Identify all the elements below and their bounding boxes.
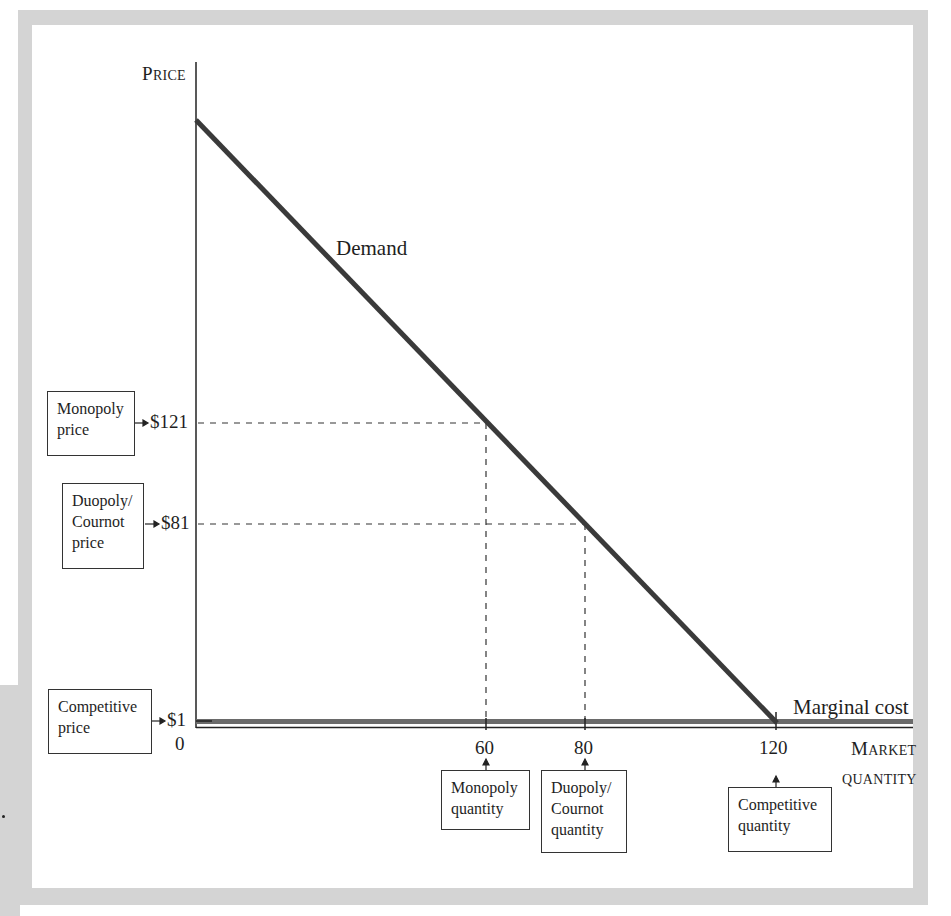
- x-tick-60: 60: [475, 737, 494, 759]
- box-line: quantity: [738, 815, 822, 836]
- y-axis-title-initial: P: [142, 63, 153, 84]
- box-line: Cournot: [72, 511, 134, 532]
- y-tick-81: $81: [161, 512, 190, 534]
- y-axis-title-rest: RICE: [153, 68, 186, 83]
- price-arrows: [134, 420, 165, 724]
- box-line: Competitive: [58, 696, 142, 717]
- origin-label: 0: [175, 733, 185, 755]
- box-line: Competitive: [738, 794, 822, 815]
- x-axis-title: MARKET: [851, 738, 916, 760]
- cournot-price-box: Duopoly/ Cournot price: [62, 483, 144, 569]
- competitive-price-box: Competitive price: [48, 689, 152, 754]
- y-axis-title: PRICE: [142, 63, 186, 85]
- marginal-cost-label: Marginal cost: [793, 695, 909, 720]
- guide-lines: [198, 423, 585, 720]
- box-line: quantity: [551, 819, 617, 840]
- x-tick-120: 120: [759, 737, 788, 759]
- box-line: Monopoly: [451, 777, 520, 798]
- box-line: price: [72, 532, 134, 553]
- competitive-quantity-box: Competitive quantity: [728, 787, 832, 852]
- x-tick-80: 80: [574, 737, 593, 759]
- box-line: price: [58, 717, 142, 738]
- y-tick-121: $121: [150, 411, 188, 433]
- y-tick-1: $1: [167, 709, 186, 731]
- box-line: Monopoly: [57, 398, 125, 419]
- box-line: price: [57, 419, 125, 440]
- box-line: quantity: [451, 798, 520, 819]
- box-line: Cournot: [551, 798, 617, 819]
- x-axis-title-line2: QUANTITY: [842, 772, 917, 787]
- monopoly-quantity-box: Monopoly quantity: [441, 770, 530, 830]
- box-line: Duopoly/: [551, 777, 617, 798]
- cournot-quantity-box: Duopoly/ Cournot quantity: [541, 770, 627, 853]
- x-axis-title-rest: ARKET: [868, 743, 916, 758]
- monopoly-price-box: Monopoly price: [47, 391, 135, 456]
- box-line: Duopoly/: [72, 490, 134, 511]
- demand-label: Demand: [336, 236, 407, 261]
- x-axis-title-initial: M: [851, 738, 868, 759]
